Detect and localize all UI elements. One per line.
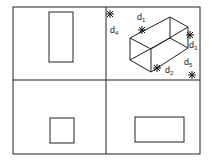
front-view-rect <box>49 12 73 62</box>
side-view-rect <box>135 117 184 142</box>
label-d4: d4 <box>110 25 119 36</box>
label-d5: d5 <box>184 57 193 68</box>
label-d2: d2 <box>165 65 174 76</box>
isometric-box <box>130 17 188 72</box>
label-d3: d3 <box>189 40 198 51</box>
label-d1: d1 <box>137 12 146 23</box>
top-view-square <box>50 118 74 143</box>
projection-diagram: d4 d1 d3 d2 d5 <box>0 0 209 165</box>
